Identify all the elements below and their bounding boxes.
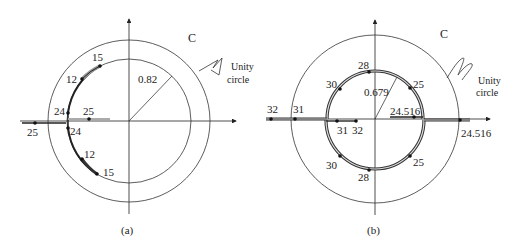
unity-label-line2-a: circle (227, 74, 250, 85)
point-25-lower-b (408, 154, 412, 158)
label-24-upper-a: 24 (54, 105, 66, 117)
label-25-upper-b: 25 (413, 78, 425, 90)
point-12-upper-a (80, 77, 84, 81)
label-24516-inner-b: 24.516 (390, 105, 421, 117)
label-24-lower-a: 24 (70, 125, 82, 137)
label-28-lower-b: 28 (358, 171, 370, 183)
point-25-inner-a (87, 117, 91, 121)
unity-label-line1-b: Unity (478, 75, 501, 86)
caption-a: (a) (121, 224, 134, 237)
unity-callout-squiggle-b (447, 58, 472, 80)
label-28-upper-b: 28 (358, 59, 370, 71)
caption-b: (b) (367, 224, 380, 237)
label-30-lower-b: 30 (326, 159, 338, 171)
point-32-outer-b (269, 117, 273, 121)
point-25-upper-b (408, 86, 412, 90)
label-12-lower-a: 12 (84, 148, 95, 160)
label-25-lower-b: 25 (413, 156, 425, 168)
point-31-inner-b (335, 119, 339, 123)
label-31-inner-b: 31 (337, 124, 348, 136)
point-15-upper-a (98, 64, 102, 68)
radius-label-b: 0.679 (364, 86, 389, 98)
unity-label-line2-b: circle (476, 87, 499, 98)
radius-label-a: 0.82 (138, 73, 157, 85)
label-12-upper-a: 12 (66, 73, 77, 85)
point-31-outer-b (293, 117, 297, 121)
contour-label-a: C (188, 31, 196, 45)
unity-label-line1-a: Unity (231, 61, 254, 72)
unity-callout-squiggle-a (199, 58, 222, 75)
point-30-upper-b (338, 87, 342, 91)
point-25-outer-a (33, 121, 37, 125)
label-32-outer-b: 32 (267, 103, 278, 115)
locus-upper-highlight-a (82, 66, 100, 79)
label-32-inner-b: 32 (352, 124, 363, 136)
label-15-upper-a: 15 (92, 51, 104, 63)
label-25-inner-a: 25 (83, 105, 95, 117)
point-15-lower-a (95, 172, 99, 176)
point-24-upper-a (66, 111, 70, 115)
point-30-lower-b (338, 154, 342, 158)
panel-b: 0.679 28 30 25 32 31 24.516 (266, 20, 501, 237)
label-15-lower-a: 15 (103, 166, 115, 178)
contour-label-b: C (440, 27, 448, 41)
label-24516-outer-b: 24.516 (461, 127, 492, 139)
label-30-upper-b: 30 (326, 78, 338, 90)
point-32-inner-b (354, 119, 358, 123)
locus-lower-highlight-a (82, 159, 97, 174)
point-24516-outer-b (458, 118, 462, 122)
label-25-outer-a: 25 (27, 126, 39, 138)
label-31-outer-b: 31 (293, 103, 304, 115)
panel-a: 0.82 15 12 24 25 24 25 12 15 C Unity cir… (20, 19, 254, 237)
